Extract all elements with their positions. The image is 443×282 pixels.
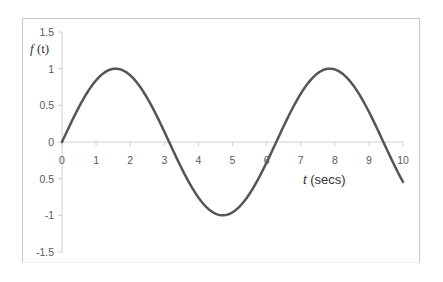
x-tick-label: 8 xyxy=(332,154,338,166)
y-axis-label: f (t) xyxy=(30,41,49,56)
sine-wave-chart: 1.510.500.5-1-1.5012345678910 f (t) t (s… xyxy=(0,0,443,282)
x-tick-label: 3 xyxy=(161,154,167,166)
x-tick-label: 2 xyxy=(127,154,133,166)
x-label-rest: (secs) xyxy=(307,172,346,187)
x-tick-label: 1 xyxy=(93,154,99,166)
x-tick-label: 4 xyxy=(195,154,201,166)
y-tick-label: 0.5 xyxy=(39,173,54,185)
y-tick-label: 0 xyxy=(48,136,54,148)
x-tick-label: 9 xyxy=(366,154,372,166)
axes xyxy=(58,32,403,252)
x-axis-label: t (secs) xyxy=(303,172,346,187)
x-tick-label: 5 xyxy=(230,154,236,166)
x-tick-label: 0 xyxy=(59,154,65,166)
y-tick-label: 1 xyxy=(48,63,54,75)
x-tick-label: 7 xyxy=(298,154,304,166)
x-tick-label: 10 xyxy=(397,154,409,166)
y-tick-label: -1 xyxy=(45,209,54,221)
y-tick-label: 1.5 xyxy=(39,26,54,38)
y-tick-label: -1.5 xyxy=(36,246,54,258)
y-tick-label: 0.5 xyxy=(39,99,54,111)
y-label-rest: (t) xyxy=(34,41,50,56)
